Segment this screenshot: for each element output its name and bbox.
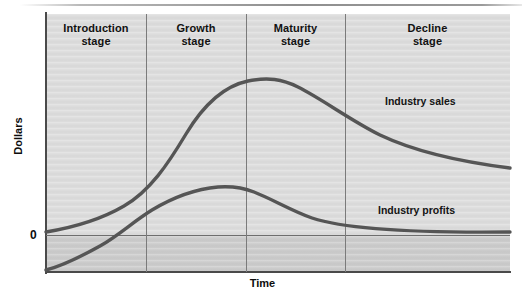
stage-label-maturity: Maturity stage <box>246 22 345 47</box>
stage-label-introduction-line2: stage <box>46 35 146 48</box>
plot-area <box>46 14 510 272</box>
y-axis-title: Dollars <box>12 106 24 166</box>
zero-baseline <box>46 235 510 236</box>
stage-label-growth-line2: stage <box>146 35 246 48</box>
x-axis-title: Time <box>0 277 525 289</box>
stage-label-decline-line1: Decline <box>345 22 510 35</box>
stage-label-decline-line2: stage <box>345 35 510 48</box>
industry-profits-label: Industry profits <box>378 204 455 216</box>
stage-label-introduction-line1: Introduction <box>46 22 146 35</box>
stage-divider-maturity-decline <box>345 14 346 272</box>
stage-label-decline: Decline stage <box>345 22 510 47</box>
stage-label-maturity-line1: Maturity <box>246 22 345 35</box>
page-top-rule <box>20 4 522 6</box>
stage-label-introduction: Introduction stage <box>46 22 146 47</box>
stage-label-growth-line1: Growth <box>146 22 246 35</box>
industry-sales-label: Industry sales <box>385 95 456 107</box>
stage-divider-introduction-growth <box>146 14 147 272</box>
stage-divider-growth-maturity <box>246 14 247 272</box>
below-zero-shaded-band <box>46 236 510 272</box>
stage-label-maturity-line2: stage <box>246 35 345 48</box>
x-axis-line <box>45 271 511 273</box>
y-axis-zero-tick-label: 0 <box>30 228 37 242</box>
stage-label-growth: Growth stage <box>146 22 246 47</box>
product-life-cycle-figure: Introduction stage Growth stage Maturity… <box>0 0 525 297</box>
